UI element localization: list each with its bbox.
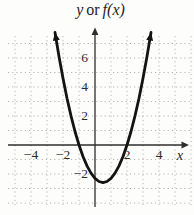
title-fx: f(x) [103, 1, 125, 18]
plot-canvas [0, 0, 194, 215]
title-or: or [86, 1, 99, 18]
y-tick-label: 4 [81, 80, 91, 94]
grid-lines [8, 36, 191, 205]
x-axis-label: x [177, 148, 183, 163]
title-y: y [76, 1, 83, 18]
y-axis-arrow-icon [92, 28, 99, 36]
x-tick-label: 4 [156, 148, 163, 162]
y-tick-label: −2 [74, 167, 91, 181]
x-tick-label: 2 [124, 148, 131, 162]
parabola-graph-figure: yorf(x) −4−224642−2 x [0, 0, 194, 215]
graph-title: yorf(x) [0, 1, 194, 19]
y-tick-label: 2 [81, 109, 91, 123]
y-tick-label: 6 [81, 51, 91, 64]
x-tick-label: −4 [24, 148, 38, 162]
x-tick-label: −2 [56, 148, 70, 162]
